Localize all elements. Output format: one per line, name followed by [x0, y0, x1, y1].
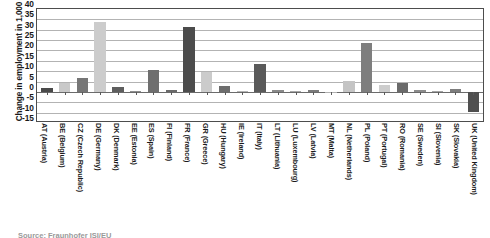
- x-tick-label: LT (Lithuania): [273, 123, 281, 169]
- x-tick-mark: [278, 92, 279, 95]
- bar-series: [37, 9, 483, 121]
- x-axis-tick-labels: AT (Austria)BE (Belgium)CZ (Czech Republ…: [36, 123, 484, 233]
- bar: [183, 27, 194, 92]
- x-tick-mark: [100, 92, 101, 95]
- bar-column: [216, 9, 234, 121]
- x-tick-label: EE (Estonia): [130, 123, 138, 165]
- x-tick-mark: [296, 92, 297, 95]
- bar-column: [127, 9, 145, 121]
- bar-column: [38, 9, 56, 121]
- x-tick-mark: [438, 92, 439, 95]
- bar-column: [429, 9, 447, 121]
- bar: [397, 83, 408, 92]
- bar-column: [56, 9, 74, 121]
- y-tick-label: 20: [25, 41, 34, 49]
- x-tick-mark: [207, 92, 208, 95]
- x-tick-mark: [242, 92, 243, 95]
- y-tick-label: 30: [25, 21, 34, 29]
- x-tick-mark: [473, 92, 474, 95]
- bar-column: [251, 9, 269, 121]
- x-tick-label: HU (Hungary): [219, 123, 227, 169]
- x-tick-mark: [367, 92, 368, 95]
- x-tick-mark: [402, 92, 403, 95]
- x-tick-mark: [118, 92, 119, 95]
- plot-area: [36, 8, 484, 122]
- x-tick-mark: [455, 92, 456, 95]
- x-tick-label: LU (Luxembourg): [291, 123, 299, 182]
- bar: [148, 70, 159, 92]
- y-tick-label: -15: [22, 114, 34, 122]
- x-tick-label: FI (Finland): [165, 123, 173, 161]
- x-tick-label: AT (Austria): [40, 123, 48, 163]
- y-tick-label: -5: [27, 93, 34, 101]
- bar-column: [411, 9, 429, 121]
- x-tick-mark: [420, 92, 421, 95]
- y-tick-label: 25: [25, 31, 34, 39]
- bar-column: [376, 9, 394, 121]
- bar-column: [91, 9, 109, 121]
- x-tick-label: CZ (Czech Republic): [76, 123, 84, 192]
- x-tick-mark: [136, 92, 137, 95]
- x-tick-mark: [171, 92, 172, 95]
- x-tick-label: RO (Romania): [398, 123, 406, 170]
- x-tick-label: DE (Germany): [94, 123, 102, 170]
- x-tick-mark: [331, 92, 332, 95]
- y-tick-label: -10: [22, 104, 34, 112]
- bar-column: [233, 9, 251, 121]
- bar-column: [287, 9, 305, 121]
- bar-column: [393, 9, 411, 121]
- bar: [343, 81, 354, 92]
- bar-column: [269, 9, 287, 121]
- x-tick-label: FR (France): [183, 123, 191, 162]
- x-tick-mark: [65, 92, 66, 95]
- x-tick-label: DK (Denmark): [112, 123, 120, 170]
- x-tick-label: NL (Netherlands): [345, 123, 353, 180]
- bar-column: [447, 9, 465, 121]
- bar-column: [358, 9, 376, 121]
- x-tick-label: ES (Spain): [147, 123, 155, 158]
- bar: [201, 72, 212, 92]
- bar: [59, 83, 70, 91]
- y-axis-tick-labels: 4035302520151050-5-10-15: [12, 4, 34, 126]
- x-tick-mark: [82, 92, 83, 95]
- x-tick-mark: [260, 92, 261, 95]
- bar-column: [340, 9, 358, 121]
- x-tick-label: BE (Belgium): [58, 123, 66, 168]
- employment-change-bar-chart: Change in employment in 1,000 4035302520…: [0, 0, 490, 238]
- x-tick-mark: [349, 92, 350, 95]
- y-tick-label: 40: [25, 0, 34, 8]
- y-tick-label: 15: [25, 52, 34, 60]
- x-tick-mark: [189, 92, 190, 95]
- bar-column: [198, 9, 216, 121]
- x-tick-label: LV (Latvia): [309, 123, 317, 159]
- bar-column: [464, 9, 482, 121]
- x-tick-mark: [384, 92, 385, 95]
- x-tick-label: IE (Ireland): [237, 123, 245, 159]
- bar-column: [304, 9, 322, 121]
- x-tick-label: PL (Poland): [363, 123, 371, 162]
- bar-column: [322, 9, 340, 121]
- x-tick-label: UK (United Kingdom): [470, 123, 478, 195]
- x-tick-mark: [225, 92, 226, 95]
- x-tick-label: GR (Greece): [201, 123, 209, 164]
- x-tick-label: PT (Portugal): [380, 123, 388, 167]
- y-tick-label: 5: [29, 73, 34, 81]
- y-tick-label: 35: [25, 10, 34, 18]
- x-tick-label: SI (Slovenia): [434, 123, 442, 165]
- x-tick-mark: [153, 92, 154, 95]
- x-tick-label: MT (Malta): [327, 123, 335, 158]
- bar-column: [162, 9, 180, 121]
- source-note: Source: Fraunhofer ISI/EU: [18, 231, 111, 238]
- bar-column: [180, 9, 198, 121]
- y-tick-label: 0: [29, 83, 34, 91]
- x-tick-label: IT (Italy): [255, 123, 263, 150]
- bar-column: [109, 9, 127, 121]
- x-tick-label: SE (Sweden): [416, 123, 424, 166]
- bar-column: [74, 9, 92, 121]
- bar: [94, 22, 105, 92]
- bar-column: [145, 9, 163, 121]
- bar: [361, 43, 372, 92]
- y-tick-label: 10: [25, 62, 34, 70]
- x-tick-mark: [313, 92, 314, 95]
- bar: [254, 64, 265, 92]
